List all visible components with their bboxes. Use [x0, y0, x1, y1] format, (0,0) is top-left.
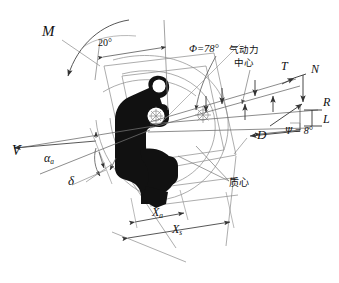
occupant-silhouette [115, 76, 178, 208]
diagram-vector-graphics [0, 0, 339, 283]
thrust-arrow-T [282, 78, 294, 84]
label-velocity-V: V [12, 144, 21, 158]
label-psi-angle: Ψ = 8° [285, 126, 313, 136]
label-alpha-a: αa [44, 152, 54, 165]
alpha-a-subscript: a [50, 157, 54, 166]
label-thrust-T: T [281, 60, 288, 72]
label-drag-D: D [257, 128, 266, 141]
x-a-subscript: a [159, 211, 163, 220]
label-lift-L: L [323, 113, 330, 125]
x-s-subscript: s [179, 228, 182, 237]
center-of-mass-leader [178, 146, 229, 181]
label-resultant-R: R [323, 96, 330, 108]
label-aerodynamic-center-line2: 中心 [234, 58, 254, 68]
label-aerodynamic-center-line1: 气动力 [229, 45, 259, 55]
label-delta: δ [68, 174, 74, 187]
normal-force-arrow-N [294, 74, 306, 102]
label-moment-M: M [42, 24, 55, 39]
label-angle-20: 20° [98, 38, 112, 48]
label-normal-force-N: N [311, 63, 319, 75]
label-x-s: Xs [172, 223, 182, 236]
lift-arrow-L [304, 110, 322, 126]
moment-arc-M [68, 20, 129, 76]
label-x-a: Xa [152, 206, 163, 219]
aero-center-leader [242, 70, 250, 104]
diagram-canvas: M 20° Φ=78° 气动力 中心 T N R L Ψ = 8° D 质心 V… [0, 0, 339, 283]
label-phi-angle: Φ=78° [189, 44, 219, 55]
label-center-of-mass: 质心 [229, 178, 249, 188]
delta-angle [72, 152, 116, 185]
